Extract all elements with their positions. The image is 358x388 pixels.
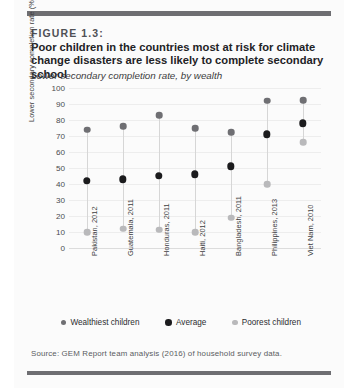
data-point-wealth[interactable]	[120, 123, 127, 130]
y-axis-tick-label: 60	[56, 148, 65, 157]
range-connector-line	[195, 128, 196, 232]
right-margin	[344, 0, 358, 388]
y-axis-tick-label: 30	[56, 196, 65, 205]
legend-item-average[interactable]: Average	[165, 318, 206, 327]
data-point-avg[interactable]	[299, 119, 306, 126]
x-axis-tick-label: Pakistan, 2012	[90, 206, 99, 256]
x-axis-tick-label: Honduras, 2011	[162, 203, 171, 256]
top-rule	[27, 11, 331, 16]
y-axis-title: Lower secondary completion rate (%)	[27, 0, 36, 122]
left-margin	[0, 0, 14, 388]
data-point-wealth[interactable]	[156, 112, 163, 119]
bottom-rule	[27, 371, 331, 375]
figure-source: Source: GEM Report team analysis (2016) …	[31, 349, 335, 358]
data-point-wealth[interactable]	[264, 98, 271, 105]
data-point-poor[interactable]	[84, 229, 91, 236]
y-axis-tick-label: 100	[51, 84, 65, 93]
chart-area: Lower secondary completion rate (%) 0102…	[31, 86, 331, 316]
x-axis-tick-label: Viet Nam, 2010	[306, 204, 315, 256]
data-point-wealth[interactable]	[192, 125, 199, 132]
data-point-poor[interactable]	[300, 139, 307, 146]
chart-legend: Wealthiest childrenAveragePoorest childr…	[31, 318, 331, 327]
data-point-poor[interactable]	[228, 214, 235, 221]
y-axis-tick-label: 80	[56, 116, 65, 125]
legend-item-label: Wealthiest children	[70, 318, 139, 327]
range-connector-line	[231, 132, 232, 218]
data-point-avg[interactable]	[155, 172, 162, 179]
y-axis-tick-label: 40	[56, 180, 65, 189]
figure-card: FIGURE 1.3: Poor children in the countri…	[0, 0, 358, 388]
legend-swatch-icon	[232, 320, 237, 325]
y-axis-tick-label: 10	[56, 228, 65, 237]
y-axis-tick-label: 90	[56, 100, 65, 109]
data-point-poor[interactable]	[192, 229, 199, 236]
y-axis-tick-label: 0	[60, 244, 65, 253]
x-axis-tick-label: Philippines, 2013	[270, 199, 279, 256]
legend-swatch-icon	[165, 319, 172, 326]
legend-item-label: Poorest children	[242, 318, 301, 327]
x-axis-line	[69, 248, 321, 249]
gridline	[69, 88, 321, 89]
legend-item-wealthiest[interactable]: Wealthiest children	[61, 318, 139, 327]
legend-item-poorest[interactable]: Poorest children	[232, 318, 301, 327]
data-point-wealth[interactable]	[228, 129, 235, 136]
data-point-wealth[interactable]	[84, 126, 91, 133]
plot-canvas: 0102030405060708090100Pakistan, 2012Guat…	[69, 88, 321, 248]
y-axis-tick-label: 50	[56, 164, 65, 173]
legend-swatch-icon	[61, 320, 66, 325]
range-connector-line	[267, 101, 268, 184]
data-point-wealth[interactable]	[300, 97, 307, 104]
gridline	[69, 104, 321, 105]
data-point-poor[interactable]	[120, 226, 127, 233]
x-axis-tick-label: Guatemala, 2011	[126, 199, 135, 256]
figure-number-label: FIGURE 1.3:	[31, 27, 104, 39]
y-axis-tick-label: 20	[56, 212, 65, 221]
data-point-poor[interactable]	[264, 181, 271, 188]
x-axis-tick-label: Bangladesh, 2011	[234, 196, 243, 256]
y-axis-tick-label: 70	[56, 132, 65, 141]
x-axis-tick-label: Haiti, 2012	[198, 220, 207, 256]
legend-item-label: Average	[176, 318, 206, 327]
data-point-poor[interactable]	[156, 226, 163, 233]
figure-subtitle: Lower secondary completion rate, by weal…	[31, 70, 331, 81]
data-point-avg[interactable]	[191, 171, 198, 178]
data-point-avg[interactable]	[119, 175, 126, 182]
gridline	[69, 120, 321, 121]
